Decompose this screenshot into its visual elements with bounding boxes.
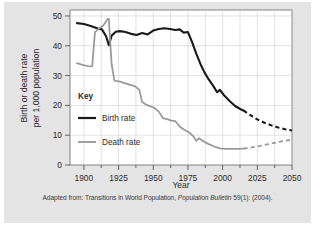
x-tick-label: 2025: [248, 173, 267, 183]
caption-publication: Population Bulletin: [178, 194, 232, 201]
x-tick-label: 2050: [283, 173, 302, 183]
caption-suffix: 59(1): (2004).: [231, 194, 272, 201]
figure-caption: Adapted from: Transitions in World Popul…: [4, 194, 311, 201]
y-tick-label: 40: [53, 41, 63, 51]
y-tick-label: 20: [53, 100, 63, 110]
y-tick-label: 30: [53, 71, 63, 81]
legend-title: Key: [78, 92, 93, 101]
legend-label-birth-rate: Birth rate: [102, 114, 136, 123]
figure-panel: 1900192519501975200020252050 01020304050…: [4, 2, 311, 223]
x-axis-title: Year: [173, 180, 190, 190]
y-tick-label: 0: [57, 160, 62, 170]
y-axis-title-line1: Birth or death rate: [19, 53, 29, 122]
y-tick-label: 50: [53, 11, 63, 21]
y-tick-label: 10: [53, 130, 63, 140]
x-tick-label: 1950: [144, 173, 163, 183]
y-axis-title-line2: per 1,000 population: [31, 49, 41, 128]
x-tick-label: 1900: [75, 173, 94, 183]
caption-prefix: Adapted from: Transitions in World Popul…: [42, 194, 177, 201]
y-axis-tick-labels: 01020304050: [53, 11, 63, 170]
birth-death-rate-chart: 1900192519501975200020252050 01020304050…: [4, 2, 311, 194]
legend-label-death-rate: Death rate: [102, 138, 141, 147]
x-tick-label: 2000: [213, 173, 232, 183]
x-tick-label: 1925: [109, 173, 128, 183]
